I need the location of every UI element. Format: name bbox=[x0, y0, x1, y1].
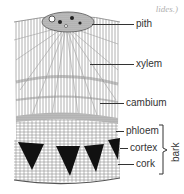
label-cork: cork bbox=[136, 159, 155, 169]
label-pith: pith bbox=[136, 19, 152, 29]
phloem-region bbox=[16, 119, 118, 140]
cambium-leader bbox=[100, 103, 124, 104]
label-cambium: cambium bbox=[126, 98, 167, 108]
cortex-leader bbox=[120, 148, 128, 149]
label-phloem: phloem bbox=[126, 126, 159, 136]
label-cortex: cortex bbox=[130, 143, 157, 153]
label-bark: bark bbox=[170, 143, 181, 162]
xylem-leader bbox=[90, 64, 134, 65]
bark-bracket-icon bbox=[158, 124, 170, 176]
phloem-leader bbox=[116, 131, 124, 132]
pith-region bbox=[42, 12, 94, 32]
pith-leader bbox=[92, 24, 134, 25]
cork-leader bbox=[118, 164, 134, 165]
label-xylem: xylem bbox=[136, 59, 162, 69]
